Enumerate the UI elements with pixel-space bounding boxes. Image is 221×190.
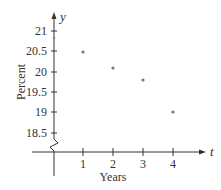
x-tick-label: 4 bbox=[170, 157, 176, 171]
axis-break-zigzag bbox=[50, 139, 58, 151]
y-tick-label: 20.5 bbox=[26, 44, 47, 58]
y-tick-label: 18.5 bbox=[26, 126, 47, 140]
y-tick-label: 20 bbox=[35, 65, 47, 79]
x-axis-title: Years bbox=[100, 170, 127, 184]
x-tick-label: 2 bbox=[110, 157, 116, 171]
y-tick-labels: 21 20.5 20 19.5 19 18.5 bbox=[26, 24, 47, 140]
x-tick-labels: 1 2 3 4 bbox=[80, 157, 176, 171]
x-tick-label: 3 bbox=[140, 157, 146, 171]
y-tick-label: 19.5 bbox=[26, 85, 47, 99]
x-axis-arrow-icon bbox=[199, 150, 206, 155]
data-point bbox=[141, 78, 144, 81]
data-point bbox=[81, 50, 84, 53]
y-axis-title: Percent bbox=[14, 63, 28, 100]
y-tick-label: 19 bbox=[35, 105, 47, 119]
scatter-chart: y t 21 20.5 20 19.5 19 18.5 1 2 3 4 Year… bbox=[0, 0, 221, 190]
x-tick-label: 1 bbox=[80, 157, 86, 171]
y-axis-arrow-icon bbox=[52, 12, 57, 19]
x-axis-var-label: t bbox=[210, 144, 214, 159]
data-point bbox=[171, 110, 174, 113]
y-tick-label: 21 bbox=[35, 24, 47, 38]
data-points bbox=[81, 50, 174, 113]
y-axis-var-label: y bbox=[58, 9, 66, 24]
data-point bbox=[111, 66, 114, 69]
